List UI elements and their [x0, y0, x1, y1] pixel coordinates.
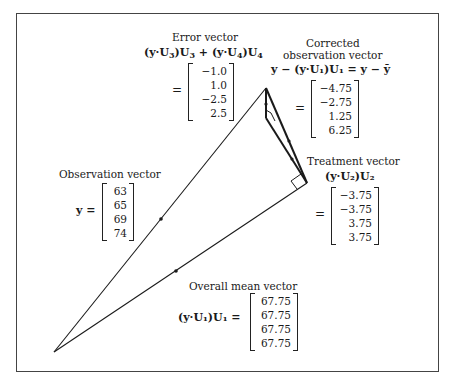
- corrected-matrix: −4.75 −2.75 1.25 6.25: [311, 80, 359, 138]
- observation-vector-formula: y =: [76, 204, 95, 217]
- treatment-equals: =: [315, 207, 325, 221]
- mean-vector-formula: (y·U₁)U₁ =: [178, 311, 241, 324]
- treatment-matrix: −3.75 −3.75 3.75 3.75: [331, 187, 379, 245]
- arrow-treatment-icon: [290, 157, 293, 160]
- error-vector-title: Error vector: [172, 31, 238, 43]
- arrow-observation-icon: [159, 217, 163, 221]
- error-matrix: −1.0 1.0 −2.5 2.5: [188, 63, 234, 121]
- mean-matrix: 67.75 67.75 67.75 67.75: [250, 293, 298, 351]
- arrow-mean-icon: [174, 269, 178, 273]
- observation-matrix: 63 65 69 74: [102, 183, 134, 241]
- right-angle-marker: [291, 174, 301, 189]
- corrected-vector-subtitle: observation vector: [283, 49, 382, 61]
- arrow-corrected-icon: [287, 139, 290, 142]
- treatment-vector-formula: (y·U₂)U₂: [325, 170, 374, 183]
- error-equals: =: [172, 83, 182, 97]
- corrected-vector-formula: y − (y·U₁)U₁ = y − ȳ: [271, 63, 390, 76]
- treatment-vector-title: Treatment vector: [307, 155, 400, 167]
- error-vector-formula: (y·U3)U3 + (y·U4)U4: [144, 46, 263, 62]
- treatment-vector-line: [266, 118, 307, 183]
- observation-vector-title: Observation vector: [59, 168, 161, 180]
- arrow-error-icon: [264, 102, 267, 105]
- corrected-equals: =: [295, 101, 305, 115]
- corrected-vector-title: Corrected: [306, 37, 360, 49]
- mean-vector-title: Overall mean vector: [189, 280, 297, 292]
